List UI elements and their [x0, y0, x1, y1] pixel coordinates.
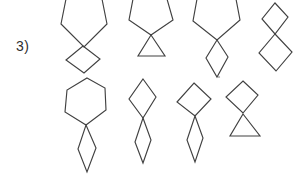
- top-3-rhombus: [206, 40, 228, 77]
- bottom-4-triangle: [230, 114, 260, 136]
- stray-dot: [218, 76, 220, 78]
- bottom-4-diamond: [226, 81, 258, 113]
- bottom-1-hexagon: [65, 78, 106, 125]
- top-2-triangle: [138, 35, 165, 56]
- bottom-2-rhombus-narrow: [135, 118, 151, 163]
- shapes-svg: [0, 0, 305, 177]
- bottom-3-diamond: [177, 83, 211, 116]
- bottom-2-diamond: [129, 79, 156, 118]
- top-4-diamond-small: [262, 3, 288, 34]
- top-1-diamond: [66, 46, 100, 73]
- bottom-3-rhombus-narrow: [187, 116, 203, 162]
- top-3-hexagon: [193, 0, 240, 40]
- bottom-1-rhombus-narrow: [78, 125, 96, 172]
- puzzle-canvas: 3): [0, 0, 305, 177]
- top-4-diamond-large: [259, 34, 292, 71]
- top-1-hexagon: [61, 0, 107, 47]
- top-2-hexagon: [129, 0, 173, 35]
